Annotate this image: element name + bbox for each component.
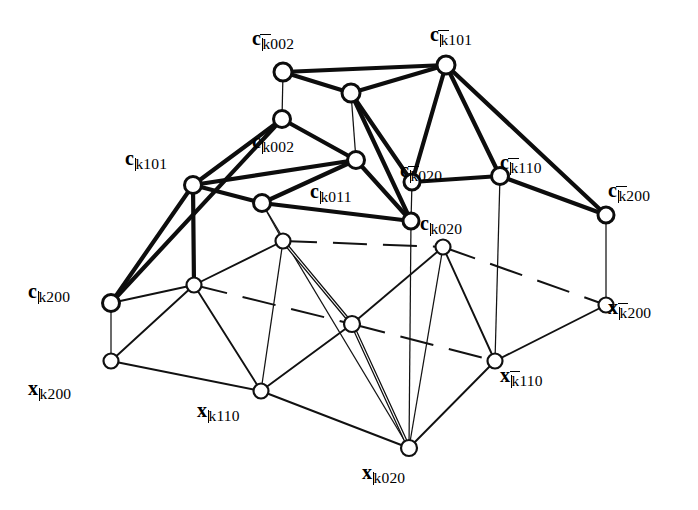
label-symbol: c — [125, 147, 134, 169]
graph-edge — [409, 221, 411, 448]
label-subscript: k002 — [261, 35, 294, 52]
blackboard-k-glyph: k — [134, 156, 143, 172]
graph-edge — [111, 185, 193, 303]
label-subscript: k200 — [617, 187, 650, 204]
label-symbol: c — [608, 179, 617, 201]
vertex-label-c-kbar101: ck101 — [430, 24, 472, 44]
label-index-digits: 101 — [143, 155, 167, 172]
label-symbol: c — [430, 23, 439, 45]
graph-node-c-k020[interactable] — [403, 213, 419, 229]
graph-node[interactable] — [436, 240, 451, 255]
label-symbol: x — [197, 399, 207, 421]
graph-node-c-kbar101[interactable] — [437, 56, 455, 74]
label-index-digits: 020 — [418, 167, 442, 184]
label-index-digits: 002 — [270, 35, 294, 52]
label-index-digits: 200 — [626, 187, 650, 204]
figure-canvas: ck002ck101ck002ck101ck020ck110ck011ck200… — [0, 0, 698, 510]
graph-edge — [500, 176, 606, 215]
label-symbol: c — [400, 159, 409, 181]
label-symbol: c — [252, 130, 261, 152]
graph-edge — [194, 285, 352, 324]
label-subscript: k002 — [261, 138, 294, 155]
overline-bar: k — [618, 305, 627, 321]
graph-edge — [261, 324, 352, 391]
graph-node-x-k200[interactable] — [104, 354, 119, 369]
label-index-digits: 110 — [216, 407, 239, 424]
vertex-label-c-k011: ck011 — [310, 181, 352, 201]
label-index-digits: 200 — [46, 288, 70, 305]
vertex-label-c-k002: ck002 — [252, 131, 294, 151]
label-subscript: k110 — [509, 159, 542, 176]
label-symbol: c — [252, 27, 261, 49]
graph-node[interactable] — [276, 234, 291, 249]
graph-edge — [194, 241, 283, 285]
graph-edge — [111, 361, 261, 391]
blackboard-k-glyph: k — [261, 36, 270, 52]
graph-node-c-kbar002[interactable] — [274, 63, 292, 81]
label-index-digits: 020 — [381, 469, 405, 486]
blackboard-k-glyph: k — [38, 386, 47, 402]
label-index-digits: 101 — [448, 31, 472, 48]
graph-edge — [352, 247, 443, 324]
blackboard-k-glyph: k — [509, 160, 518, 176]
label-index-digits: 002 — [270, 138, 294, 155]
graph-edge — [495, 176, 500, 361]
label-subscript: k110 — [207, 407, 240, 424]
label-index-digits: 020 — [438, 220, 462, 237]
blackboard-k-glyph: k — [372, 470, 381, 486]
graph-edge — [193, 185, 262, 203]
label-subscript: k020 — [372, 469, 405, 486]
graph-node[interactable] — [187, 278, 202, 293]
vertex-label-c-kbar020: ck020 — [400, 160, 442, 180]
label-subscript: k200 — [37, 288, 70, 305]
label-symbol: x — [28, 377, 38, 399]
blackboard-k-glyph: k — [429, 221, 438, 237]
label-subscript: k200 — [38, 385, 71, 402]
graph-node-c-k101[interactable] — [185, 177, 202, 194]
label-index-digits: 200 — [47, 385, 71, 402]
graph-node[interactable] — [348, 152, 365, 169]
graph-node-c-k200[interactable] — [103, 295, 120, 312]
graph-node-c-k002[interactable] — [274, 111, 291, 128]
graph-edge — [194, 285, 261, 391]
label-symbol: x — [362, 461, 372, 483]
overline-bar: k — [261, 36, 270, 52]
graph-edge — [446, 65, 606, 215]
overline-bar: k — [617, 188, 626, 204]
graph-node[interactable] — [342, 84, 360, 102]
blackboard-k-glyph: k — [618, 305, 627, 321]
graph-node-c-k011[interactable] — [254, 195, 271, 212]
graph-node-c-kbar200[interactable] — [598, 207, 614, 223]
graph-edge — [193, 185, 194, 285]
graph-node-x-k110[interactable] — [254, 384, 269, 399]
label-index-digits: 200 — [627, 304, 651, 321]
vertex-label-c-k101: ck101 — [125, 148, 167, 168]
blackboard-k-glyph: k — [319, 189, 328, 205]
overline-bar: k — [510, 373, 519, 389]
vertex-label-x-k200: xk200 — [28, 378, 71, 398]
graph-node[interactable] — [344, 316, 360, 332]
vertex-label-c-kbar200: ck200 — [608, 180, 650, 200]
graph-edge — [495, 305, 606, 361]
vertex-label-c-kbar110: ck110 — [500, 152, 542, 172]
label-subscript: k101 — [134, 155, 167, 172]
vertex-label-x-k110: xk110 — [197, 400, 240, 420]
vertex-label-x-kbar200: xk200 — [608, 297, 651, 317]
blackboard-k-glyph: k — [37, 289, 46, 305]
label-subscript: k020 — [409, 167, 442, 184]
label-symbol: c — [500, 151, 509, 173]
graph-node-x-k020[interactable] — [401, 440, 417, 456]
label-subscript: k110 — [510, 372, 543, 389]
blackboard-k-glyph: k — [617, 188, 626, 204]
blackboard-k-glyph: k — [261, 139, 270, 155]
graph-edge — [111, 285, 194, 361]
label-subscript: k011 — [319, 188, 352, 205]
label-symbol: c — [28, 280, 37, 302]
vertex-label-x-kbar110: xk110 — [500, 365, 543, 385]
blackboard-k-glyph: k — [409, 168, 418, 184]
label-subscript: k101 — [439, 31, 472, 48]
label-symbol: c — [310, 180, 319, 202]
label-index-digits: 110 — [518, 159, 541, 176]
graph-edge — [283, 241, 352, 324]
graph-edge — [443, 247, 495, 361]
